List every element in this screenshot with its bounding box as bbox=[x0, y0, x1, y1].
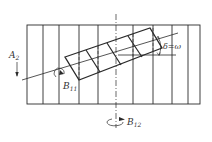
workpiece-outline bbox=[27, 25, 200, 104]
helical-cut-diagram: A2 B11 B12 δ=ω bbox=[0, 0, 212, 142]
label-delta-omega: δ=ω bbox=[163, 42, 182, 51]
label-a2: A2 bbox=[8, 50, 20, 61]
slanted-feed-line bbox=[22, 33, 178, 80]
label-b12: B12 bbox=[126, 117, 141, 128]
label-b11: B11 bbox=[62, 81, 77, 92]
